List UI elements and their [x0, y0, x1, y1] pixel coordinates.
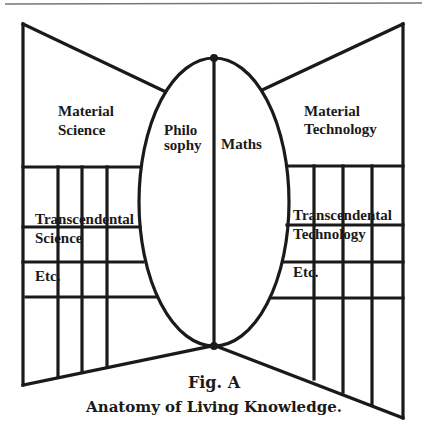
left-etc-label: Etc.	[35, 268, 61, 284]
header-rule	[5, 3, 422, 4]
left-top-slant	[23, 24, 164, 91]
bottom-node-dot	[210, 342, 218, 350]
right-top-slant	[262, 24, 403, 90]
anatomy-diagram: Material Science Philo sophy Maths Mater…	[0, 0, 426, 446]
top-node-dot	[210, 54, 218, 62]
material-science-label-1: Material	[58, 103, 114, 119]
material-technology-label-1: Material	[304, 103, 360, 119]
left-wing	[23, 24, 212, 385]
right-etc-label: Etc.	[293, 264, 319, 280]
figure-number: Fig. A	[188, 373, 241, 392]
maths-label: Maths	[221, 136, 262, 152]
transcendental-science-label-1: Transcendental	[35, 211, 134, 227]
center-ellipse-group	[139, 54, 289, 350]
transcendental-technology-label-1: Transcendental	[293, 207, 392, 223]
philosophy-label-2: sophy	[164, 137, 202, 153]
material-technology-label-2: Technology	[304, 121, 377, 137]
left-bottom-slant	[23, 346, 212, 385]
transcendental-science-label-2: Science	[35, 230, 83, 246]
material-science-label-2: Science	[58, 122, 106, 138]
figure-caption: Anatomy of Living Knowledge.	[85, 398, 342, 416]
philosophy-label-1: Philo	[164, 122, 197, 138]
transcendental-technology-label-2: Technology	[293, 226, 366, 242]
